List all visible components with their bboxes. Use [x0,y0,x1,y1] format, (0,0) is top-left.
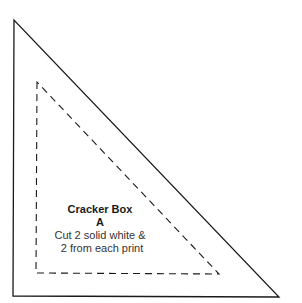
pattern-title: Cracker Box [40,203,160,215]
outer-cutting-line [13,20,279,297]
cutting-instruction-1: Cut 2 solid white & [40,229,160,241]
cutting-instruction-2: 2 from each print [42,242,162,254]
piece-letter: A [40,216,160,228]
quilt-pattern-diagram [0,0,302,303]
